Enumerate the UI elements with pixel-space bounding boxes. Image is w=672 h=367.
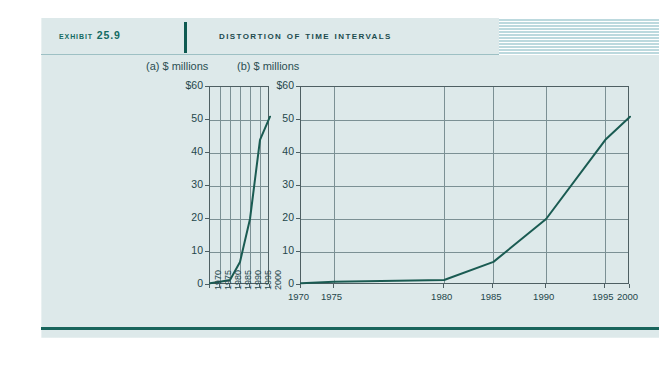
header-rule: [41, 54, 499, 55]
x-tickmark: [604, 284, 605, 288]
y-axis-tick-label: 40: [163, 145, 203, 157]
x-tickmark: [209, 284, 210, 288]
chart-b-caption: (b) $ millions: [237, 60, 299, 72]
y-axis-tick-label: 0: [163, 277, 203, 289]
x-axis-tick-label: 2000: [617, 291, 638, 302]
y-axis-tick-label: 30: [254, 178, 294, 190]
x-axis-tick-label: 1985: [480, 291, 501, 302]
y-axis-tick-label: 20: [254, 211, 294, 223]
y-tickmark: [296, 152, 300, 153]
x-tickmark: [300, 284, 301, 288]
x-tickmark: [492, 284, 493, 288]
y-axis-tick-label: 20: [163, 211, 203, 223]
y-tickmark: [205, 218, 209, 219]
x-axis-tick-label: 1990: [533, 291, 554, 302]
y-axis-tick-label: 30: [163, 178, 203, 190]
chart-b-plot-area: [300, 86, 629, 284]
y-tickmark: [205, 86, 209, 87]
y-tickmark: [205, 185, 209, 186]
y-axis-tick-label: $60: [254, 79, 294, 91]
x-tickmark: [229, 284, 230, 288]
x-axis-tick-label: 1975: [321, 291, 342, 302]
y-tickmark: [296, 86, 300, 87]
x-tickmark: [545, 284, 546, 288]
page-title: Distortion of Time Intervals: [219, 29, 392, 41]
y-axis-tick-label: 10: [163, 244, 203, 256]
vertical-rule-icon: [184, 22, 187, 53]
series-line: [301, 117, 630, 284]
exhibit-label: Exhibit 25.9: [59, 29, 121, 41]
x-tickmark: [333, 284, 334, 288]
y-axis-tick-label: $60: [163, 79, 203, 91]
y-tickmark: [296, 119, 300, 120]
x-axis-tick-label: 1995: [592, 291, 613, 302]
y-tickmark: [296, 218, 300, 219]
chart-panel-b: (b) $ millions $605040302010019701975198…: [231, 60, 631, 320]
y-tickmark: [296, 185, 300, 186]
y-tickmark: [205, 152, 209, 153]
y-axis-tick-label: 50: [163, 112, 203, 124]
x-axis-tick-label: 1970: [288, 291, 309, 302]
x-axis-tick-label: 1970: [213, 270, 223, 290]
x-tickmark: [219, 284, 220, 288]
exhibit-header: Exhibit 25.9 Distortion of Time Interval…: [41, 18, 659, 53]
striped-decoration-block: [499, 18, 659, 55]
x-tickmark: [629, 284, 630, 288]
y-axis-tick-label: 0: [254, 277, 294, 289]
y-axis-tick-label: 40: [254, 145, 294, 157]
y-axis-tick-label: 10: [254, 244, 294, 256]
x-axis-tick-label: 1980: [431, 291, 452, 302]
series-layer: [301, 87, 630, 285]
y-tickmark: [296, 251, 300, 252]
chart-a-caption: (a) $ millions: [146, 60, 208, 72]
bottom-rule: [41, 327, 659, 330]
y-axis-tick-label: 50: [254, 112, 294, 124]
exhibit-panel: Exhibit 25.9 Distortion of Time Interval…: [41, 18, 659, 338]
x-tickmark: [443, 284, 444, 288]
y-tickmark: [205, 119, 209, 120]
y-tickmark: [205, 251, 209, 252]
